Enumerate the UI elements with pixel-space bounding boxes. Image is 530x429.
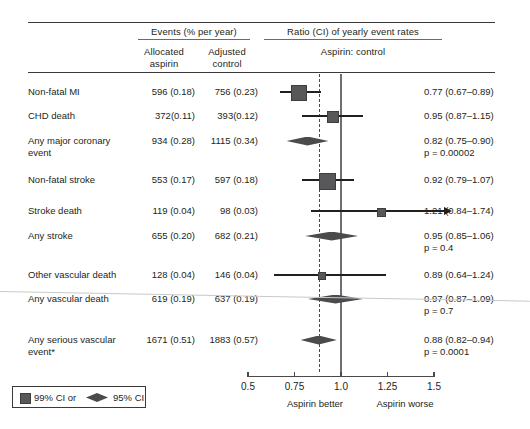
axis-tick	[340, 372, 341, 377]
row-label: Non-fatal stroke	[28, 174, 95, 186]
cell-adjusted-control: 146 (0.04)	[183, 269, 258, 281]
header-allocated-line2: aspirin	[133, 58, 195, 69]
cell-p-value: p = 0.0001	[424, 346, 469, 358]
cell-ratio-ci: 0.88 (0.82–0.94)	[424, 334, 494, 346]
point-estimate-diamond	[301, 336, 337, 345]
axis-tick-label: 1.5	[409, 381, 459, 392]
axis-tick	[247, 372, 248, 377]
cell-ratio-ci: 0.89 (0.64–1.24)	[424, 269, 494, 281]
point-estimate-square	[377, 208, 386, 217]
cell-ratio-ci: 0.92 (0.79–1.07)	[424, 174, 494, 186]
row-label: Other vascular death	[28, 269, 116, 281]
header-ratio-group: Ratio (CI) of yearly event rates	[264, 26, 442, 37]
point-estimate-square	[318, 272, 326, 280]
axis-tick-label: 1.0	[316, 381, 366, 392]
cell-p-value: p = 0.00002	[424, 147, 474, 159]
axis-tick-label: 0.5	[223, 381, 273, 392]
rule-ratio-group	[264, 39, 442, 40]
axis-tick-label: 0.75	[270, 381, 320, 392]
null-reference-line	[340, 74, 342, 372]
header-adjusted-line1: Adjusted	[196, 46, 258, 57]
axis-tick	[294, 372, 295, 377]
rule-header-bottom	[28, 72, 495, 73]
point-estimate-diamond	[305, 232, 358, 241]
cell-ratio-ci: 0.77 (0.67–0.89)	[424, 86, 494, 98]
cell-adjusted-control: 756 (0.23)	[183, 86, 258, 98]
legend-label-95: 95% CI	[113, 392, 144, 403]
row-label: CHD death	[28, 110, 75, 122]
axis-caption-right: Aspirin worse	[345, 398, 465, 409]
cell-adjusted-control: 393(0.12)	[183, 110, 258, 122]
row-label: Any stroke	[28, 230, 73, 242]
row-label: Any vascular death	[28, 293, 109, 305]
row-label: Stroke death	[28, 205, 82, 217]
legend-diamond-icon	[86, 393, 108, 402]
cell-p-value: p = 0.4	[424, 242, 453, 254]
cell-ratio-ci: 0.95 (0.85–1.06)	[424, 230, 494, 242]
axis-tick-label: 1.25	[363, 381, 413, 392]
legend-label-99: 99% CI or	[34, 392, 76, 403]
cell-adjusted-control: 597 (0.18)	[183, 174, 258, 186]
cell-adjusted-control: 1883 (0.57)	[183, 334, 258, 346]
point-estimate-diamond	[287, 137, 329, 146]
confidence-interval-line	[274, 274, 386, 275]
header-allocated-line1: Allocated	[133, 46, 195, 57]
row-label-line2: event*	[28, 346, 55, 358]
cell-adjusted-control: 682 (0.21)	[183, 230, 258, 242]
row-label: Any serious vascular	[28, 334, 116, 346]
cell-adjusted-control: 98 (0.03)	[183, 205, 258, 217]
cell-ratio-ci: 0.95 (0.87–1.15)	[424, 110, 494, 122]
axis-tick	[433, 372, 434, 377]
row-label-line2: event	[28, 147, 51, 159]
point-estimate-square	[291, 85, 307, 101]
cell-ratio-ci: 0.82 (0.75–0.90)	[424, 135, 494, 147]
axis-tick	[387, 372, 388, 377]
header-events-group: Events (% per year)	[138, 26, 250, 37]
header-ratio-sub: Aspirin: control	[264, 46, 442, 57]
point-estimate-square	[327, 111, 339, 123]
row-label: Non-fatal MI	[28, 86, 80, 98]
rule-events-group	[138, 39, 250, 40]
summary-reference-line	[319, 74, 320, 372]
cell-adjusted-control: 1115 (0.34)	[183, 135, 258, 147]
ci-arrow-icon	[444, 207, 452, 215]
cell-p-value: p = 0.7	[424, 305, 453, 317]
header-adjusted-line2: control	[196, 58, 258, 69]
row-label: Any major coronary	[28, 135, 110, 147]
point-estimate-square	[319, 173, 336, 190]
rule-top	[28, 22, 495, 23]
legend-box: 99% CI or 95% CI	[12, 386, 146, 408]
legend-square-icon	[20, 393, 31, 404]
